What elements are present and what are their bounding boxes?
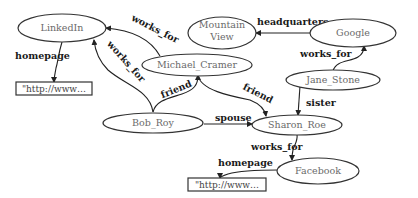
label-homepage-facebook: homepage	[218, 157, 273, 168]
svg-text:Google: Google	[336, 27, 370, 38]
svg-text:Michael_Cramer: Michael_Cramer	[157, 59, 237, 71]
svg-text:"http://www…: "http://www…	[22, 84, 86, 94]
edge-facebook-homepage	[220, 170, 278, 178]
node-facebook[interactable]: Facebook	[277, 158, 359, 184]
knowledge-graph: homepage works_for works_for headquarter…	[0, 0, 418, 198]
node-sharon-roe[interactable]: Sharon_Roe	[252, 115, 342, 135]
label-friend-bob-michael: friend	[159, 78, 193, 100]
label-works-for-michael: works_for	[129, 11, 182, 45]
node-mountain-view[interactable]: Mountain View	[188, 17, 256, 49]
edge-jane-sister-sharon	[298, 86, 300, 115]
label-works-for-bob: works_for	[104, 37, 148, 84]
node-facebook-url[interactable]: "http://www…	[188, 178, 266, 191]
svg-text:Mountain: Mountain	[199, 19, 245, 30]
label-works-for-jane: works_for	[299, 48, 353, 59]
label-spouse: spouse	[215, 112, 252, 123]
svg-text:Jane_Stone: Jane_Stone	[305, 74, 360, 86]
label-works-for-sharon: works_for	[250, 141, 304, 152]
edge-linkedin-homepage	[54, 42, 62, 82]
node-linkedin-url[interactable]: "http://www…	[16, 82, 92, 95]
svg-text:Sharon_Roe: Sharon_Roe	[268, 119, 326, 131]
label-friend-michael-sharon: friend	[241, 81, 275, 106]
node-linkedin[interactable]: LinkedIn	[18, 14, 106, 42]
svg-text:Bob_Roy: Bob_Roy	[132, 117, 174, 129]
svg-text:View: View	[209, 31, 234, 42]
svg-text:Facebook: Facebook	[295, 165, 341, 176]
label-sister: sister	[306, 97, 337, 108]
svg-text:"http://www…: "http://www…	[195, 180, 259, 190]
node-michael-cramer[interactable]: Michael_Cramer	[142, 54, 252, 76]
node-jane-stone[interactable]: Jane_Stone	[286, 70, 380, 90]
node-bob-roy[interactable]: Bob_Roy	[103, 113, 203, 133]
node-google[interactable]: Google	[310, 19, 396, 47]
svg-text:LinkedIn: LinkedIn	[41, 22, 84, 33]
label-homepage-linkedin: homepage	[15, 50, 70, 61]
